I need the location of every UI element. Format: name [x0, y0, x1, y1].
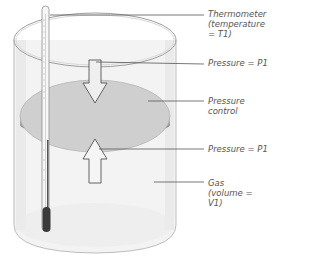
pressure-control-label: Pressure control — [208, 96, 245, 116]
gas-label: Gas (volume = V1) — [208, 178, 269, 208]
pressure-top-label: Pressure = P1 — [208, 58, 268, 68]
thermometer-label: Thermometer (temperature = T1) — [208, 9, 266, 39]
thermometer — [42, 6, 51, 232]
pressure-bottom-label: Pressure = P1 — [208, 144, 268, 154]
